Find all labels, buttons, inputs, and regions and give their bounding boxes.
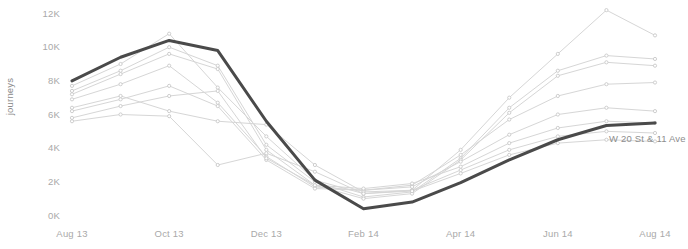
x-tick-label: Aug 13 (56, 228, 87, 239)
series-marker (459, 153, 462, 156)
series-marker (313, 170, 316, 173)
series-marker (605, 120, 608, 123)
series-marker (313, 163, 316, 166)
x-tick-label: Oct 13 (155, 228, 184, 239)
plot-area (0, 0, 688, 249)
series-marker (70, 106, 73, 109)
series-marker (605, 130, 608, 133)
series-marker (362, 192, 365, 195)
series-line (72, 10, 655, 193)
series-marker (168, 115, 171, 118)
series-marker (168, 52, 171, 55)
series-marker (216, 86, 219, 89)
series-marker (119, 94, 122, 97)
series-marker (556, 52, 559, 55)
series-marker (556, 142, 559, 145)
x-tick-label: Feb 14 (348, 228, 379, 239)
series-marker (265, 148, 268, 151)
series-marker (605, 106, 608, 109)
series-marker (410, 189, 413, 192)
series-marker (216, 163, 219, 166)
series-marker (459, 172, 462, 175)
series-marker (265, 135, 268, 138)
series-marker (556, 74, 559, 77)
series-marker (556, 94, 559, 97)
series-marker (119, 113, 122, 116)
series-marker (70, 89, 73, 92)
x-tick-label: Dec 13 (251, 228, 282, 239)
series-marker (653, 34, 656, 37)
series-marker (362, 187, 365, 190)
series-marker (556, 126, 559, 129)
x-tick-label: Jun 14 (543, 228, 573, 239)
series-marker (653, 57, 656, 60)
series-marker (556, 135, 559, 138)
series-marker (508, 106, 511, 109)
series-marker (168, 94, 171, 97)
series-marker (508, 96, 511, 99)
series-marker (216, 120, 219, 123)
series-marker (216, 67, 219, 70)
series-marker (70, 116, 73, 119)
series-marker (168, 110, 171, 113)
series-marker (216, 104, 219, 107)
series-marker (410, 182, 413, 185)
series-marker (605, 61, 608, 64)
series-marker (605, 83, 608, 86)
series-marker (313, 184, 316, 187)
series-marker (653, 81, 656, 84)
series-marker (459, 148, 462, 151)
series-marker (653, 64, 656, 67)
series-marker (168, 84, 171, 87)
series-marker (168, 32, 171, 35)
series-marker (653, 110, 656, 113)
series-marker (119, 73, 122, 76)
series-marker (508, 111, 511, 114)
series-marker (556, 113, 559, 116)
series-line (72, 66, 655, 191)
series-marker (605, 54, 608, 57)
series-line (72, 96, 655, 192)
series-marker (119, 83, 122, 86)
series-marker (168, 64, 171, 67)
series-marker (216, 101, 219, 104)
series-marker (508, 148, 511, 151)
series-marker (508, 118, 511, 121)
series-marker (119, 104, 122, 107)
series-marker (119, 62, 122, 65)
highlight-series-line (72, 40, 655, 208)
series-marker (362, 197, 365, 200)
series-marker (508, 133, 511, 136)
line-chart: journeys 0K2K4K6K8K10K12K W 20 St & 11 A… (0, 0, 688, 249)
series-marker (70, 120, 73, 123)
series-marker (459, 168, 462, 171)
series-marker (265, 143, 268, 146)
series-marker (119, 98, 122, 101)
series-marker (459, 160, 462, 163)
series-marker (70, 84, 73, 87)
series-marker (216, 89, 219, 92)
series-marker (119, 69, 122, 72)
highlight-series-label: W 20 St & 11 Ave (609, 133, 686, 144)
series-marker (70, 93, 73, 96)
series-marker (168, 46, 171, 49)
x-tick-label: Aug 14 (639, 228, 670, 239)
series-marker (605, 9, 608, 12)
series-marker (70, 110, 73, 113)
x-tick-label: Apr 14 (446, 228, 475, 239)
series-marker (216, 64, 219, 67)
series-marker (265, 152, 268, 155)
series-marker (605, 138, 608, 141)
series-marker (508, 142, 511, 145)
series-marker (508, 153, 511, 156)
series-marker (410, 185, 413, 188)
series-marker (313, 187, 316, 190)
series-marker (265, 157, 268, 160)
series-marker (556, 69, 559, 72)
series-marker (70, 98, 73, 101)
series-marker (459, 165, 462, 168)
series-line (72, 91, 655, 189)
